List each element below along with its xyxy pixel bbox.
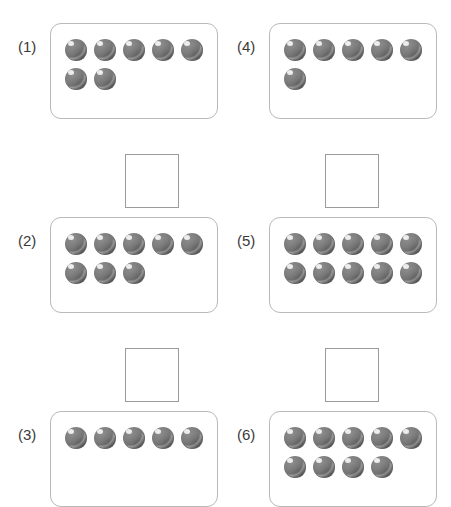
counter-dot (123, 427, 145, 449)
counter-dot (400, 233, 422, 255)
counter-dot (284, 39, 306, 61)
counter-dot (94, 262, 116, 284)
counter-dot (342, 427, 364, 449)
answer-input-box[interactable] (325, 348, 379, 402)
counter-dot (284, 262, 306, 284)
counter-dot (313, 262, 335, 284)
counter-group-box (269, 23, 437, 119)
counter-dot (284, 456, 306, 478)
counter-dot (152, 39, 174, 61)
problem-number-label: (5) (237, 232, 255, 249)
counter-dot (313, 39, 335, 61)
counter-dot (400, 262, 422, 284)
counter-dot (123, 39, 145, 61)
counter-row (284, 68, 430, 97)
counter-rows (284, 39, 430, 97)
counter-dot (371, 262, 393, 284)
problem-number-label: (6) (237, 426, 255, 443)
counter-dot (94, 68, 116, 90)
answer-input-box[interactable] (325, 154, 379, 208)
counter-dot (65, 39, 87, 61)
counter-dot (371, 39, 393, 61)
counter-dot (313, 427, 335, 449)
counter-rows (284, 233, 430, 291)
counter-row (65, 68, 211, 97)
counter-dot (313, 233, 335, 255)
counter-row (284, 233, 430, 262)
problem-number-label: (1) (18, 38, 36, 55)
counter-dot (342, 262, 364, 284)
counter-dot (342, 233, 364, 255)
counter-row (284, 456, 430, 485)
counter-dot (400, 427, 422, 449)
counter-dot (123, 262, 145, 284)
counter-row (284, 262, 430, 291)
counter-dot (342, 456, 364, 478)
counter-dot (181, 427, 203, 449)
counter-dot (94, 39, 116, 61)
answer-input-box[interactable] (125, 348, 179, 402)
counter-row (284, 427, 430, 456)
counter-dot (284, 427, 306, 449)
counter-dot (181, 233, 203, 255)
counter-group-box (50, 23, 218, 119)
counter-dot (313, 456, 335, 478)
counter-rows (65, 427, 211, 456)
counter-dot (181, 39, 203, 61)
counter-rows (65, 233, 211, 291)
problem-number-label: (4) (237, 38, 255, 55)
counter-dot (284, 233, 306, 255)
counter-dot (371, 456, 393, 478)
counter-dot (94, 233, 116, 255)
counter-dot (152, 427, 174, 449)
counter-row (65, 427, 211, 456)
counter-dot (94, 427, 116, 449)
counter-row (65, 39, 211, 68)
counter-dot (123, 233, 145, 255)
counter-rows (284, 427, 430, 485)
counter-dot (65, 68, 87, 90)
counter-dot (284, 68, 306, 90)
counter-dot (65, 233, 87, 255)
counter-rows (65, 39, 211, 97)
counter-dot (371, 233, 393, 255)
answer-input-box[interactable] (125, 154, 179, 208)
counter-row (65, 262, 211, 291)
counter-row (65, 233, 211, 262)
counter-dot (152, 233, 174, 255)
counter-group-box (50, 411, 218, 507)
problem-number-label: (2) (18, 232, 36, 249)
problem-number-label: (3) (18, 426, 36, 443)
counter-dot (65, 262, 87, 284)
counter-group-box (50, 217, 218, 313)
counter-group-box (269, 217, 437, 313)
counter-dot (342, 39, 364, 61)
counter-dot (371, 427, 393, 449)
counter-row (284, 39, 430, 68)
counter-dot (65, 427, 87, 449)
counter-dot (400, 39, 422, 61)
counter-group-box (269, 411, 437, 507)
